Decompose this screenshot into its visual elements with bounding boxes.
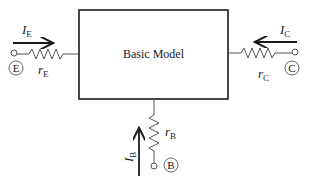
collector-branch: IC C rC (228, 22, 299, 83)
collector-resistor-label: rC (258, 66, 269, 83)
base-terminal-label: B (167, 159, 174, 171)
base-resistor-icon (149, 99, 159, 163)
base-terminal-node-icon (151, 163, 157, 169)
emitter-resistor-label: rE (38, 62, 49, 79)
collector-terminal-label: C (288, 62, 295, 74)
emitter-resistor-icon (17, 49, 79, 59)
base-resistor-label: rB (165, 124, 176, 141)
collector-terminal-node-icon (292, 49, 298, 55)
collector-resistor-icon (228, 48, 292, 58)
base-current-label: IB (121, 152, 138, 163)
emitter-branch: IE E rE (9, 22, 79, 79)
basic-model-label: Basic Model (123, 47, 185, 61)
emitter-current-label: IE (21, 22, 32, 39)
basic-model-block: Basic Model (79, 10, 228, 99)
diagram-canvas: Basic Model IE E rE IC C rC B rB IB (0, 0, 313, 181)
base-branch: B rB IB (121, 99, 178, 176)
emitter-terminal-label: E (13, 62, 20, 74)
emitter-terminal-node-icon (11, 50, 17, 56)
collector-current-label: IC (279, 22, 290, 39)
